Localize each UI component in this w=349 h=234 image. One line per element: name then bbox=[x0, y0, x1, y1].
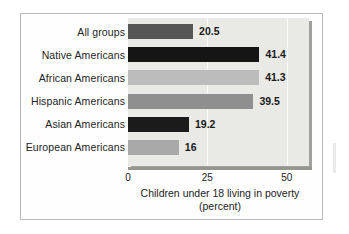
bar-row bbox=[128, 47, 309, 62]
category-label-column: All groups Native Americans African Amer… bbox=[24, 24, 125, 164]
bar-row bbox=[128, 70, 309, 85]
x-axis-tick-label: 25 bbox=[202, 172, 213, 183]
bar bbox=[128, 70, 259, 85]
bar-series bbox=[128, 24, 309, 163]
category-label: Hispanic Americans bbox=[24, 94, 125, 109]
x-axis-tick-label: 50 bbox=[281, 172, 292, 183]
x-axis-caption: Children under 18 living in poverty (per… bbox=[128, 187, 312, 213]
caption-line-2: (percent) bbox=[128, 200, 312, 213]
bar-row bbox=[128, 24, 309, 39]
bar bbox=[128, 117, 189, 132]
category-label: European Americans bbox=[24, 140, 125, 155]
scan-artifact bbox=[333, 143, 336, 173]
bar-row bbox=[128, 94, 309, 109]
x-axis-tick-labels: 02550 bbox=[128, 172, 323, 186]
bar bbox=[128, 94, 253, 109]
category-label: All groups bbox=[24, 24, 125, 39]
bar bbox=[128, 47, 259, 62]
category-label: African Americans bbox=[24, 70, 125, 85]
category-label: Native Americans bbox=[24, 47, 125, 62]
caption-line-1: Children under 18 living in poverty bbox=[128, 187, 312, 200]
x-axis-line bbox=[128, 167, 312, 170]
bar bbox=[128, 140, 179, 155]
bar-row bbox=[128, 140, 309, 155]
bar-row bbox=[128, 117, 309, 132]
bar bbox=[128, 24, 193, 39]
x-axis-tick-label: 0 bbox=[125, 172, 131, 183]
plot-area bbox=[128, 18, 309, 166]
category-label: Asian Americans bbox=[24, 117, 125, 132]
